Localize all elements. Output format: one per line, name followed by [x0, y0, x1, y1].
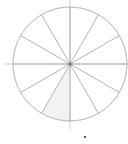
- pie-chart-canvas: [0, 0, 128, 144]
- pie-slice-5[interactable]: [70, 64, 119, 113]
- pie-slice-2[interactable]: [70, 15, 119, 64]
- pie-slice-11[interactable]: [21, 15, 70, 64]
- tick-mark-icon: [84, 136, 86, 138]
- pie-chart-figure: [0, 0, 128, 144]
- pie-center-dot: [68, 62, 71, 65]
